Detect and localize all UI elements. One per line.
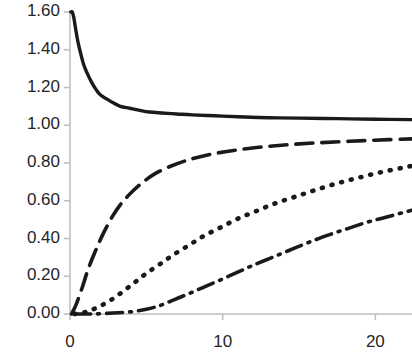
series-solid (71, 12, 412, 120)
y-axis-tick-label: 1.20 (0, 77, 60, 97)
line-chart: 1.601.401.201.000.800.600.400.200.00 010… (0, 0, 412, 364)
x-axis-tick-label: 0 (50, 332, 90, 352)
x-axis-tick-label: 20 (355, 332, 395, 352)
y-axis-tick-label: 0.80 (0, 152, 60, 172)
series-dashed (72, 139, 412, 314)
y-axis-tick-label: 1.60 (0, 1, 60, 21)
y-axis-tick-label: 0.20 (0, 265, 60, 285)
series-dotted (75, 166, 412, 314)
y-axis-tick-label: 0.60 (0, 190, 60, 210)
y-axis-tick-label: 0.00 (0, 303, 60, 323)
y-axis-tick-label: 0.40 (0, 228, 60, 248)
y-axis-tick-label: 1.00 (0, 114, 60, 134)
series-dash-dot (75, 210, 412, 314)
y-axis-tick-label: 1.40 (0, 39, 60, 59)
x-axis-tick-label: 10 (203, 332, 243, 352)
plot-area (0, 0, 412, 364)
